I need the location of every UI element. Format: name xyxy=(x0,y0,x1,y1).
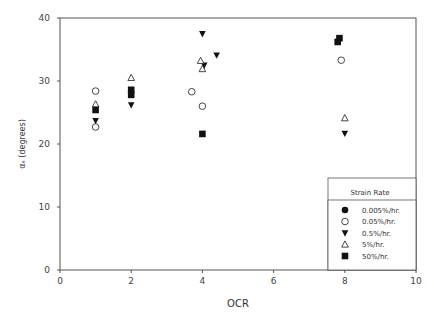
x-tick-label: 6 xyxy=(271,276,277,286)
filled-square-marker xyxy=(199,131,206,138)
open-triangle-up-marker xyxy=(197,57,204,63)
y-tick-label: 0 xyxy=(44,265,50,275)
filled-square-marker xyxy=(128,92,135,99)
legend-entry-label: 5%/hr. xyxy=(362,241,384,249)
x-tick-label: 8 xyxy=(342,276,348,286)
open-circle-marker xyxy=(92,124,99,131)
legend-entry-label: 0.05%/hr. xyxy=(362,218,396,226)
filled-triangle-down-marker xyxy=(213,53,220,59)
open-triangle-up-marker xyxy=(92,101,99,107)
filled-square-marker xyxy=(342,253,349,260)
legend-entry-label: 0.005%/hr. xyxy=(362,207,400,215)
series-0-5-hr- xyxy=(92,31,348,137)
open-triangle-up-marker xyxy=(128,74,135,80)
y-tick-label: 10 xyxy=(39,202,51,212)
y-tick-label: 30 xyxy=(39,76,51,86)
legend: Strain Rate0.005%/hr.0.05%/hr.0.5%/hr.5%… xyxy=(328,178,416,270)
y-tick-label: 40 xyxy=(39,13,51,23)
x-tick-label: 0 xyxy=(57,276,63,286)
open-circle-marker xyxy=(342,218,349,225)
open-circle-marker xyxy=(92,88,99,95)
filled-square-marker xyxy=(92,107,99,114)
y-axis-title: αₑ (degrees) xyxy=(18,119,27,169)
x-tick-label: 10 xyxy=(410,276,422,286)
open-circle-marker xyxy=(199,103,206,110)
filled-circle-marker xyxy=(342,207,349,214)
x-axis-title: OCR xyxy=(227,298,249,309)
legend-entry-label: 50%/hr. xyxy=(362,253,389,261)
series-50-hr- xyxy=(92,35,342,137)
scatter-chart: 0246810010203040OCRαₑ (degrees)Strain Ra… xyxy=(0,0,434,324)
legend-title: Strain Rate xyxy=(350,189,389,197)
filled-square-marker xyxy=(336,35,343,42)
filled-triangle-down-marker xyxy=(92,118,99,124)
y-tick-label: 20 xyxy=(39,139,51,149)
filled-triangle-down-marker xyxy=(342,131,349,137)
filled-triangle-down-marker xyxy=(128,102,135,108)
filled-triangle-down-marker xyxy=(199,31,206,37)
open-circle-marker xyxy=(188,88,195,95)
x-tick-label: 4 xyxy=(200,276,206,286)
open-circle-marker xyxy=(338,57,345,64)
open-triangle-up-marker xyxy=(342,115,349,121)
x-tick-label: 2 xyxy=(128,276,134,286)
legend-entry-label: 0.5%/hr. xyxy=(362,230,391,238)
